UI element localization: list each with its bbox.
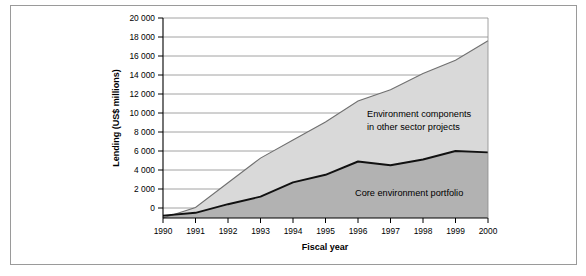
- y-axis-title: Lending (US$ millions): [111, 69, 121, 167]
- x-tick-label: 1998: [414, 226, 433, 236]
- x-tick-label: 1997: [381, 226, 400, 236]
- y-tick-label: 8 000: [134, 127, 155, 137]
- x-axis-title: Fiscal year: [302, 242, 349, 252]
- x-tick-label: 1999: [446, 226, 465, 236]
- y-tick-label: 4 000: [134, 165, 155, 175]
- lower-area-label: Core environment portfolio: [355, 188, 463, 198]
- y-axis-tick-labels: 20 000 18 000 16 000 14 000 12 000 10 00…: [129, 13, 155, 213]
- y-tick-label: 12 000: [129, 89, 155, 99]
- y-tick-label: 16 000: [129, 51, 155, 61]
- y-tick-label: 20 000: [129, 13, 155, 23]
- y-tick-label: 14 000: [129, 70, 155, 80]
- x-axis-tick-labels: 1990 1991 1992 1993 1994 1995 1996 1997 …: [154, 226, 498, 236]
- x-tick-label: 1990: [154, 226, 173, 236]
- x-tick-label: 1992: [219, 226, 238, 236]
- x-tick-label: 1996: [349, 226, 368, 236]
- y-tick-label: 10 000: [129, 108, 155, 118]
- x-tick-label: 1993: [251, 226, 270, 236]
- x-tick-label: 2000: [479, 226, 498, 236]
- y-tick-label: 2 000: [134, 184, 155, 194]
- x-tick-label: 1995: [316, 226, 335, 236]
- x-axis-ticks: [163, 218, 488, 223]
- y-tick-label: 6 000: [134, 146, 155, 156]
- x-tick-label: 1994: [284, 226, 303, 236]
- stacked-area-chart: 20 000 18 000 16 000 14 000 12 000 10 00…: [0, 0, 586, 276]
- y-axis-ticks: [158, 18, 163, 208]
- figure-container: 20 000 18 000 16 000 14 000 12 000 10 00…: [0, 0, 586, 276]
- x-tick-label: 1991: [186, 226, 205, 236]
- upper-area-label-line1: Environment components: [367, 109, 472, 119]
- y-tick-label: 18 000: [129, 32, 155, 42]
- y-tick-label: 0: [150, 203, 155, 213]
- upper-area-label-line2: in other sector projects: [367, 122, 460, 132]
